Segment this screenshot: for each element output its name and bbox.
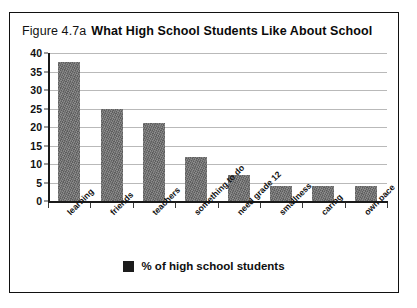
y-axis-tick-label: 35 (30, 66, 42, 78)
y-axis-tick-label: 0 (36, 195, 42, 207)
x-axis-tick-mark (48, 203, 49, 208)
x-axis-tick-mark (260, 203, 261, 208)
legend-label: % of high school students (141, 260, 284, 272)
y-axis-tick-label: 40 (30, 47, 42, 59)
y-axis-tick-label: 25 (30, 103, 42, 115)
x-axis-tick-mark (133, 203, 134, 208)
bar (185, 157, 207, 201)
plot-area: 0510152025303540 (48, 53, 387, 201)
legend-swatch-icon (123, 261, 134, 272)
bars-layer (48, 53, 387, 201)
x-axis-tick-mark (218, 203, 219, 208)
bar (58, 62, 80, 201)
y-axis-tick-label: 30 (30, 84, 42, 96)
figure-container: Figure 4.7aWhat High School Students Lik… (9, 12, 399, 293)
y-axis-line (48, 53, 50, 202)
chart-legend: % of high school students (10, 260, 398, 272)
bar (101, 109, 123, 202)
x-axis-tick-mark (345, 203, 346, 208)
x-axis-tick-mark (302, 203, 303, 208)
y-axis-tick-label: 5 (36, 177, 42, 189)
y-axis-tick-label: 15 (30, 140, 42, 152)
x-axis-tick-mark (175, 203, 176, 208)
bar (143, 123, 165, 201)
chart-plot-wrapper: 0510152025303540 learningfriendsteachers… (10, 13, 398, 292)
x-axis-tick-mark (387, 203, 388, 208)
x-axis-tick-mark (90, 203, 91, 208)
y-axis-tick-label: 20 (30, 121, 42, 133)
y-axis-tick-label: 10 (30, 158, 42, 170)
